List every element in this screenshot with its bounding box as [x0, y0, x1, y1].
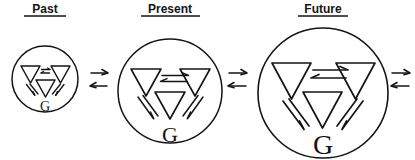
title-group-future: Future — [298, 2, 348, 16]
title-group-present: Present — [141, 2, 200, 16]
node-label-g-past: G — [40, 99, 50, 114]
title-future: Future — [304, 2, 342, 16]
node-label-g-present: G — [162, 122, 178, 147]
title-present: Present — [148, 2, 192, 16]
diagram-canvas: Past Present Future — [0, 0, 415, 160]
three-stage-growth-diagram: Past Present Future — [0, 0, 415, 160]
title-past: Past — [32, 2, 57, 16]
node-label-g-future: G — [313, 129, 333, 160]
